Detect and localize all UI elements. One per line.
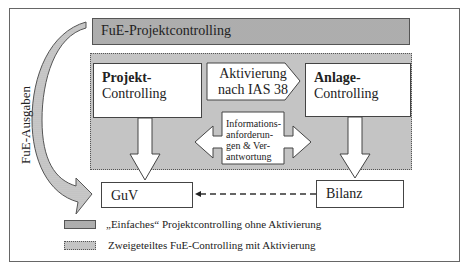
anlage-normal: Controlling	[314, 86, 379, 101]
anlage-controlling-box: Anlage- Controlling	[305, 63, 411, 117]
legend-label-einfaches: „Einfaches“ Projektcontrolling ohne Akti…	[106, 218, 321, 230]
projekt-controlling-box: Projekt- Controlling	[93, 63, 202, 118]
fue-ausgaben-label-wrap: FuE-Ausgaben	[16, 120, 36, 130]
bilanz-label: Bilanz	[326, 186, 363, 202]
guv-label: GuV	[111, 188, 138, 204]
bilanz-box: Bilanz	[316, 180, 404, 208]
guv-box: GuV	[101, 182, 193, 208]
legend-swatch-zweigeteiltes	[64, 241, 96, 250]
info-line4: antwortung	[226, 151, 272, 162]
legend-swatch-einfaches	[64, 220, 96, 229]
information-arrow-text: Informations- anforderun- gen & Ver- ant…	[226, 118, 300, 162]
projekt-normal: Controlling	[102, 86, 167, 101]
info-line2: anforderun-	[226, 129, 273, 140]
info-line1: Informations-	[226, 118, 281, 129]
info-line3: gen & Ver-	[226, 140, 270, 151]
projekt-to-guv-arrow	[130, 118, 160, 180]
fue-ausgaben-curved-arrow	[32, 22, 92, 214]
aktivierung-line1: Aktivierung	[219, 66, 287, 81]
projekt-bold: Projekt-	[102, 70, 152, 85]
fue-ausgaben-label: FuE-Ausgaben	[18, 75, 34, 175]
aktivierung-text: Aktivierung nach IAS 38	[214, 66, 292, 98]
aktivierung-line2: nach IAS 38	[218, 82, 288, 97]
anlage-to-bilanz-arrow	[340, 117, 370, 178]
dashed-arrowhead-icon	[195, 191, 201, 197]
legend-label-zweigeteiltes: Zweigeteiltes FuE-Controlling mit Aktivi…	[108, 239, 315, 251]
anlage-bold: Anlage-	[314, 70, 361, 85]
